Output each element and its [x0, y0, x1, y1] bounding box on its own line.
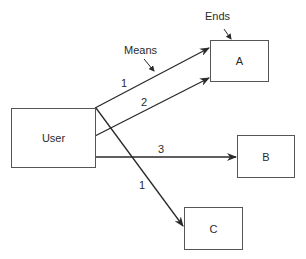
edge-label-user-c-1: 1: [139, 179, 145, 191]
ends-pointer: [224, 29, 231, 39]
node-a: A: [210, 40, 269, 82]
node-c-label: C: [210, 223, 218, 235]
means-pointer: [144, 59, 154, 71]
edge-label-user-a-1: 1: [121, 77, 127, 89]
node-user-label: User: [42, 132, 65, 144]
edge-label-user-b-3: 3: [158, 143, 164, 155]
ends-annotation: Ends: [205, 10, 230, 22]
node-b-label: B: [262, 151, 269, 163]
edge-user-a-1: [95, 48, 209, 108]
node-b: B: [237, 135, 295, 178]
edge-user-a-2: [95, 78, 209, 136]
edge-user-c-1: [96, 108, 183, 226]
node-c: C: [184, 207, 243, 250]
edge-label-user-a-2: 2: [141, 96, 147, 108]
node-user: User: [11, 108, 96, 168]
means-annotation: Means: [124, 44, 157, 56]
node-a-label: A: [236, 55, 243, 67]
